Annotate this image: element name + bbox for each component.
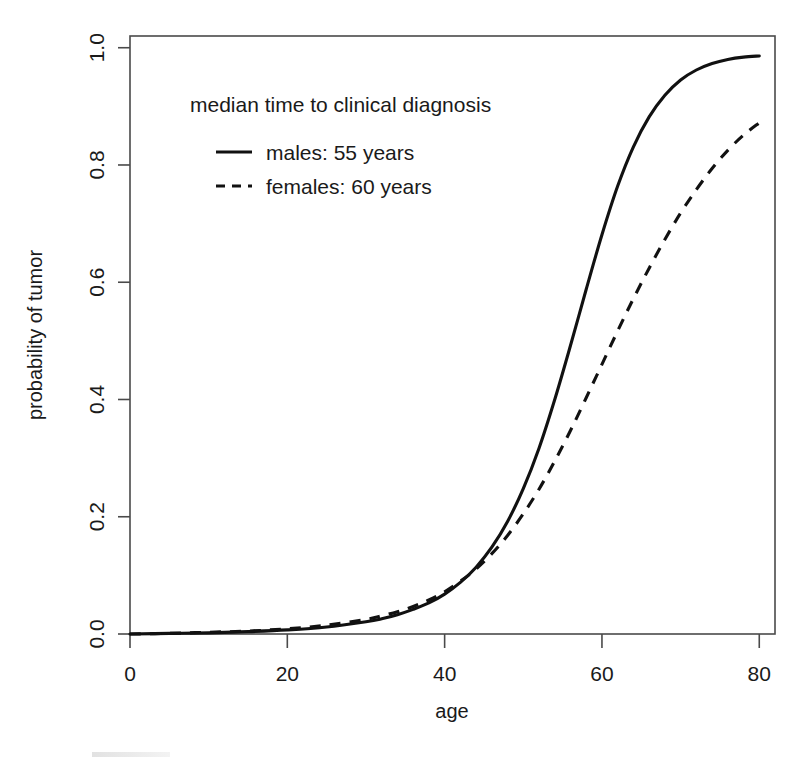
x-tick-label: 0 bbox=[124, 662, 136, 685]
legend: median time to clinical diagnosis males:… bbox=[190, 93, 491, 198]
y-axis-ticks bbox=[118, 48, 130, 634]
plot-frame bbox=[130, 36, 775, 634]
series-line-males bbox=[130, 56, 759, 634]
y-axis-title: probability of tumor bbox=[24, 250, 46, 420]
y-tick-label: 0.0 bbox=[85, 619, 108, 648]
x-axis-tick-labels: 020406080 bbox=[124, 662, 771, 685]
y-tick-label: 0.2 bbox=[85, 502, 108, 531]
legend-label-females: females: 60 years bbox=[266, 175, 432, 198]
y-tick-label: 0.4 bbox=[85, 385, 108, 415]
x-tick-label: 40 bbox=[433, 662, 456, 685]
x-axis-title: age bbox=[435, 700, 468, 722]
figure-container: 0.00.20.40.60.81.0 020406080 probability… bbox=[0, 0, 810, 764]
y-axis-tick-labels: 0.00.20.40.60.81.0 bbox=[85, 33, 108, 648]
legend-label-males: males: 55 years bbox=[266, 141, 414, 164]
x-tick-label: 20 bbox=[276, 662, 299, 685]
y-tick-label: 1.0 bbox=[85, 33, 108, 62]
x-axis-ticks bbox=[130, 634, 759, 648]
series-line-females bbox=[130, 123, 759, 634]
tumor-probability-chart: 0.00.20.40.60.81.0 020406080 probability… bbox=[0, 0, 810, 764]
y-tick-label: 0.6 bbox=[85, 268, 108, 297]
caption-fragment bbox=[92, 752, 170, 757]
y-tick-label: 0.8 bbox=[85, 150, 108, 179]
x-tick-label: 60 bbox=[590, 662, 613, 685]
x-tick-label: 80 bbox=[748, 662, 771, 685]
legend-title: median time to clinical diagnosis bbox=[190, 93, 491, 116]
